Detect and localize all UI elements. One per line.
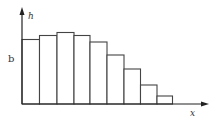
bar-4	[74, 36, 90, 105]
bars-group	[22, 33, 173, 105]
x-axis-label: x	[190, 108, 195, 118]
bar-2	[40, 36, 58, 105]
bar-8	[141, 85, 158, 104]
marker-label-b: b	[8, 53, 14, 64]
bar-1	[22, 40, 40, 105]
x-axis-arrow-icon	[201, 102, 209, 107]
bar-6	[107, 55, 124, 104]
y-axis-label: h	[28, 11, 34, 21]
bar-5	[90, 42, 107, 104]
y-axis-arrow-icon	[20, 7, 25, 15]
histogram-diagram: h x b	[0, 0, 220, 123]
bar-3	[57, 33, 74, 105]
bar-7	[124, 69, 141, 104]
bar-9	[157, 96, 173, 104]
